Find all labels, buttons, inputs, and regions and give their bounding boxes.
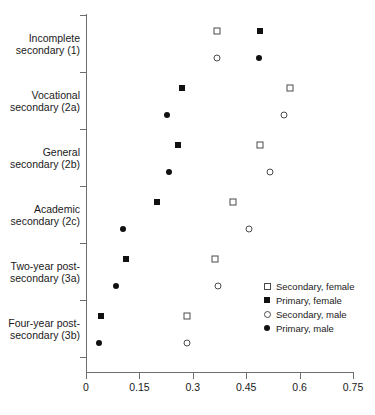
legend-label: Primary, female bbox=[276, 295, 342, 306]
x-axis-tick-1 bbox=[139, 373, 140, 379]
data-point-open-circle bbox=[215, 283, 222, 290]
y-axis-category-label: Four-year post- secondary (3b) bbox=[2, 317, 80, 342]
legend-label: Primary, male bbox=[276, 323, 334, 334]
data-point-filled-square bbox=[179, 85, 185, 91]
open-square-icon bbox=[264, 283, 271, 290]
data-point-open-circle bbox=[280, 112, 287, 119]
legend-item: Primary, male bbox=[262, 321, 374, 335]
x-axis-tick-label: 0.75 bbox=[343, 381, 363, 393]
data-point-filled-square bbox=[154, 199, 160, 205]
legend-marker-open-circle-icon bbox=[262, 309, 272, 319]
y-axis-category-label: Vocational secondary (2a) bbox=[2, 89, 80, 114]
scatter-chart-figure: Incomplete secondary (1)Vocational secon… bbox=[0, 0, 375, 415]
y-axis-category-label: Academic secondary (2c) bbox=[2, 203, 80, 228]
legend-item: Secondary, female bbox=[262, 279, 374, 293]
x-axis-tick-label: 0 bbox=[83, 381, 89, 393]
x-axis-tick-2 bbox=[193, 373, 194, 379]
x-axis-line bbox=[86, 372, 354, 373]
data-point-open-square bbox=[214, 28, 221, 35]
x-axis-tick-3 bbox=[246, 373, 247, 379]
data-point-filled-circle bbox=[113, 283, 119, 289]
data-point-filled-circle bbox=[164, 112, 170, 118]
legend-item: Primary, female bbox=[262, 293, 374, 307]
data-point-open-square bbox=[184, 313, 191, 320]
data-point-open-square bbox=[257, 142, 264, 149]
x-axis-tick-label: 0.6 bbox=[292, 381, 307, 393]
data-point-filled-square bbox=[175, 142, 181, 148]
legend-label: Secondary, male bbox=[276, 309, 347, 320]
y-axis-category-label: Two-year post- secondary (3a) bbox=[2, 260, 80, 285]
data-point-open-circle bbox=[266, 169, 273, 176]
data-point-filled-square bbox=[123, 256, 129, 262]
data-point-open-circle bbox=[184, 340, 191, 347]
data-point-open-square bbox=[211, 256, 218, 263]
x-axis-tick-label: 0.45 bbox=[236, 381, 256, 393]
x-axis-tick-label: 0.3 bbox=[185, 381, 200, 393]
data-point-filled-circle bbox=[120, 226, 126, 232]
data-point-filled-square bbox=[257, 28, 263, 34]
x-axis-tick-0 bbox=[86, 373, 87, 379]
x-axis-tick-5 bbox=[353, 373, 354, 379]
data-point-open-circle bbox=[246, 226, 253, 233]
x-axis-tick-label: 0.15 bbox=[129, 381, 149, 393]
legend-marker-filled-circle-icon bbox=[262, 323, 272, 333]
legend-item: Secondary, male bbox=[262, 307, 374, 321]
legend-label: Secondary, female bbox=[276, 281, 355, 292]
data-point-filled-circle bbox=[166, 169, 172, 175]
data-point-open-square bbox=[230, 199, 237, 206]
data-point-open-square bbox=[286, 85, 293, 92]
open-circle-icon bbox=[264, 311, 271, 318]
data-point-filled-circle bbox=[256, 55, 262, 61]
legend-marker-filled-square-icon bbox=[262, 295, 272, 305]
chart-legend: Secondary, femalePrimary, femaleSecondar… bbox=[262, 279, 374, 335]
data-point-filled-circle bbox=[96, 340, 102, 346]
filled-square-icon bbox=[264, 297, 270, 303]
data-point-filled-square bbox=[98, 313, 104, 319]
legend-marker-open-square-icon bbox=[262, 281, 272, 291]
y-axis-category-label: General secondary (2b) bbox=[2, 146, 80, 171]
y-axis-category-label: Incomplete secondary (1) bbox=[2, 32, 80, 57]
filled-circle-icon bbox=[264, 325, 270, 331]
x-axis-tick-4 bbox=[300, 373, 301, 379]
y-axis-category-labels: Incomplete secondary (1)Vocational secon… bbox=[0, 0, 80, 415]
data-point-open-circle bbox=[214, 55, 221, 62]
